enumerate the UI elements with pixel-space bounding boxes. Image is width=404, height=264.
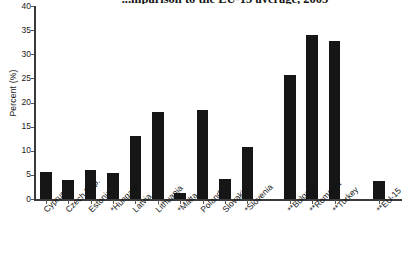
- x-tick-label: **EU-15: [375, 186, 403, 214]
- x-tick-label: Latvia: [131, 192, 153, 214]
- bar-chart: ...mparison to the EU-15 average, 2005 P…: [0, 0, 404, 264]
- x-tick-label: Poland: [199, 189, 224, 214]
- x-axis-labels: CyprusCzech Rep.Estonia*HungaryLatviaLit…: [0, 0, 404, 264]
- x-tick-label: Cyprus: [42, 189, 67, 214]
- x-tick-label: *Slovenia: [243, 183, 275, 215]
